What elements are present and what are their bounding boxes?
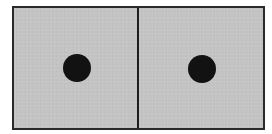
left-dot xyxy=(63,54,91,82)
right-panel xyxy=(139,8,263,128)
diagram-frame xyxy=(12,6,265,130)
right-dot xyxy=(188,55,216,83)
left-panel xyxy=(14,8,137,128)
